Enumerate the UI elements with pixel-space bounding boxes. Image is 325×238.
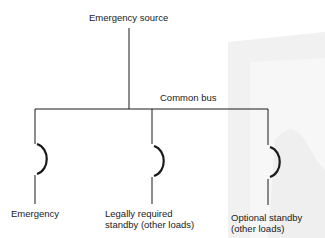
emergency-source-label: Emergency source (89, 12, 168, 23)
breaker-optional-icon (270, 147, 280, 177)
breaker-legally-required-icon (154, 146, 164, 176)
one-line-diagram (0, 0, 325, 238)
common-bus-label: Common bus (160, 92, 217, 103)
breaker-emergency-icon (37, 144, 47, 174)
branch-label-emergency: Emergency (11, 208, 59, 219)
branch-label-legally-required: Legally required standby (other loads) (105, 208, 194, 230)
branch-label-optional: Optional standby (other loads) (231, 212, 302, 234)
